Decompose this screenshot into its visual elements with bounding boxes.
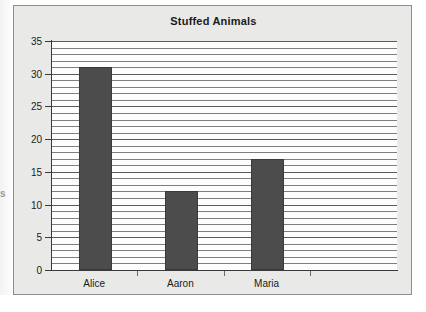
- scan-edge-shading: [0, 0, 14, 312]
- y-axis-tick-label: 5: [16, 232, 42, 243]
- y-axis-tick-mark: [45, 237, 51, 238]
- y-axis-tick-label: 20: [16, 134, 42, 145]
- x-axis-tick-label: Aaron: [167, 278, 194, 289]
- gridline: [52, 41, 397, 42]
- chart-frame: Stuffed Animals 05101520253035 AliceAaro…: [13, 5, 412, 295]
- y-axis-tick-label: 0: [16, 265, 42, 276]
- bar-alice: [79, 67, 112, 270]
- x-axis-tick-mark: [310, 271, 311, 276]
- y-axis-labels: 05101520253035: [14, 6, 42, 296]
- bar-maria: [251, 159, 284, 270]
- x-axis-tick-mark: [224, 271, 225, 276]
- y-axis-tick-mark: [45, 74, 51, 75]
- y-axis-tick-label: 30: [16, 68, 42, 79]
- x-axis-tick-mark: [137, 271, 138, 276]
- gridline: [52, 54, 397, 55]
- x-axis-tick-label: Alice: [83, 278, 105, 289]
- y-axis-tick-mark: [45, 205, 51, 206]
- y-axis-tick-label: 25: [16, 101, 42, 112]
- y-axis-line: [51, 40, 52, 271]
- y-axis-tick-label: 35: [16, 36, 42, 47]
- scan-bottom-margin: [0, 295, 426, 312]
- bar-aaron: [165, 191, 198, 270]
- gridline: [52, 61, 397, 62]
- x-axis-tick-label: Maria: [254, 278, 279, 289]
- gridline: [52, 48, 397, 49]
- y-axis-tick-mark: [45, 106, 51, 107]
- y-axis-tick-mark: [45, 41, 51, 42]
- scanned-page: s Stuffed Animals 05101520253035 AliceAa…: [0, 0, 426, 312]
- y-axis-tick-label: 15: [16, 166, 42, 177]
- chart-title: Stuffed Animals: [14, 15, 413, 27]
- y-axis-tick-mark: [45, 172, 51, 173]
- y-axis-tick-mark: [45, 139, 51, 140]
- plot-area: [51, 41, 397, 270]
- clipped-axis-label-fragment: s: [0, 188, 7, 200]
- y-axis-tick-mark: [45, 270, 51, 271]
- y-axis-tick-label: 10: [16, 199, 42, 210]
